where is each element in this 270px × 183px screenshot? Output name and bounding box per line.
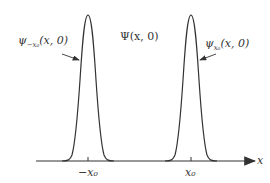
left-label-arrow-icon — [62, 54, 79, 60]
svg-text:ψ−x₀(x, 0): ψ−x₀(x, 0) — [18, 34, 68, 49]
tick-label-minus-x0: −x₀ — [78, 166, 98, 179]
axis-label-x: x — [257, 154, 264, 167]
total-wavefunction-label: Ψ(x, 0) — [120, 30, 158, 43]
svg-text:ψx₀(x, 0): ψx₀(x, 0) — [205, 37, 249, 52]
tick-label-x0: x₀ — [185, 166, 196, 179]
right-label-arrow-icon — [200, 54, 216, 60]
wavefunction-diagram: Ψ(x, 0) ψ−x₀(x, 0) ψx₀(x, 0) −x₀ x₀ x — [0, 0, 270, 183]
left-curve-label: ψ−x₀(x, 0) — [18, 34, 68, 49]
left-gaussian-curve — [62, 15, 114, 161]
right-curve-label: ψx₀(x, 0) — [205, 37, 249, 52]
